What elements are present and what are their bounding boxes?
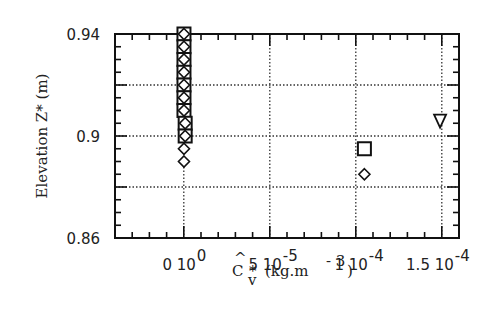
svg-text:v: v: [247, 271, 257, 289]
y-tick-label: 0.9: [76, 128, 100, 146]
data-markers: [177, 28, 446, 180]
diamond-marker: [359, 169, 370, 180]
y-tick-label: 0.86: [67, 230, 100, 248]
y-tick-labels: 0.860.90.94: [67, 26, 100, 248]
diamond-marker: [178, 156, 189, 167]
x-tick-label: 0 10: [162, 256, 195, 274]
grid-lines: [115, 34, 459, 238]
svg-text:): ): [347, 262, 353, 280]
svg-text:- 3: - 3: [326, 252, 345, 270]
square-marker: [358, 142, 371, 155]
svg-text:^: ^: [234, 249, 247, 267]
x-tick-label: 1.5 10: [406, 256, 454, 274]
x-tick-labels: 0 1005 10-51 10-41.5 10-4: [162, 247, 469, 274]
y-axis-title: Elevation Z* (m): [33, 74, 51, 199]
scatter-chart: 0.860.90.94 0 1005 10-51 10-41.5 10-4 El…: [0, 0, 499, 318]
x-tick-exponent: 0: [197, 247, 207, 265]
diamond-marker: [178, 143, 189, 154]
svg-text:(kg.m: (kg.m: [265, 262, 309, 280]
x-tick-exponent: -4: [455, 247, 470, 265]
x-tick-exponent: -4: [369, 247, 384, 265]
y-tick-label: 0.94: [67, 26, 100, 44]
triangle-marker: [434, 115, 446, 128]
